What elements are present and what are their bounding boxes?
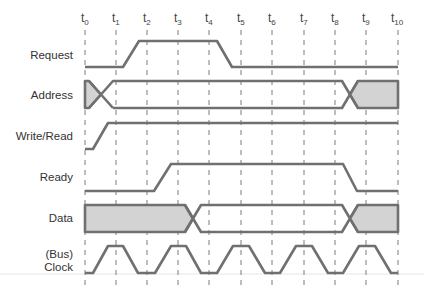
time-label-t0: t0 xyxy=(81,11,89,27)
time-label-t7: t7 xyxy=(300,11,308,27)
label-address: Address xyxy=(31,89,73,101)
time-label-t1: t1 xyxy=(112,11,120,27)
time-label-t3: t3 xyxy=(174,11,182,27)
waveform-ready xyxy=(85,164,398,191)
time-labels: t0 t1 t2 t3 t4 t5 t6 t7 t8 t9 t10 xyxy=(81,11,404,27)
address-valid-bottom xyxy=(113,81,358,108)
time-label-t10: t10 xyxy=(391,11,404,27)
time-label-t9: t9 xyxy=(362,11,370,27)
time-label-t4: t4 xyxy=(205,11,213,27)
time-label-t5: t5 xyxy=(237,11,245,27)
label-data: Data xyxy=(49,212,74,224)
label-clock: Clock xyxy=(44,261,73,273)
time-label-t2: t2 xyxy=(143,11,151,27)
label-ready: Ready xyxy=(40,171,73,183)
time-label-t6: t6 xyxy=(268,11,276,27)
waveform-write-read xyxy=(85,123,398,149)
data-transition-1 xyxy=(185,205,358,232)
label-write-read: Write/Read xyxy=(16,130,73,142)
waveform-data xyxy=(85,205,398,232)
data-invalid-right xyxy=(350,205,398,232)
label-bus: (Bus) xyxy=(46,248,74,260)
signal-labels: Request Address Write/Read Ready Data (B… xyxy=(16,49,74,273)
time-guides xyxy=(85,30,398,290)
address-valid-top xyxy=(89,81,358,108)
address-invalid-right xyxy=(350,81,398,108)
data-invalid-left xyxy=(85,205,193,232)
time-label-t8: t8 xyxy=(331,11,339,27)
timing-diagram: t0 t1 t2 t3 t4 t5 t6 t7 t8 t9 t10 Reques… xyxy=(0,0,424,295)
label-request: Request xyxy=(30,49,74,61)
